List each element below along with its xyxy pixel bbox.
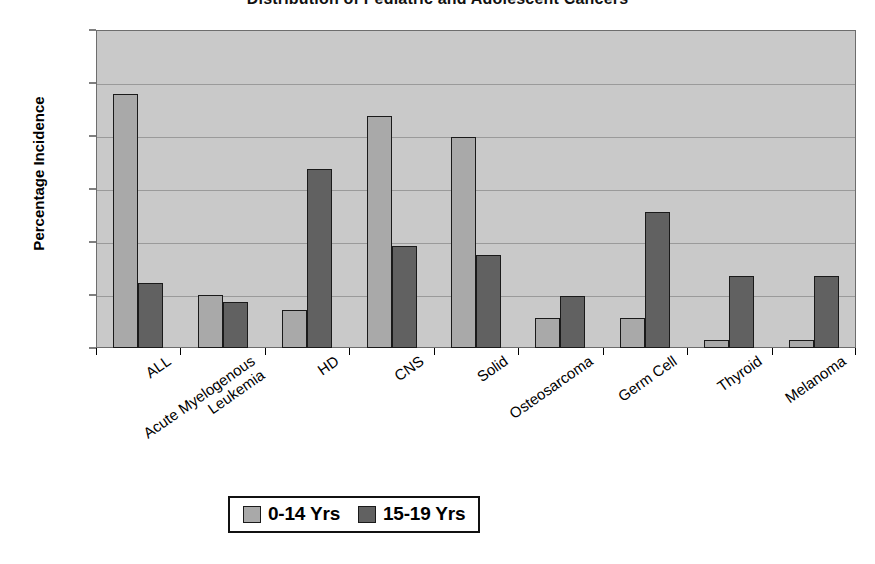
x-tick-label-line: HD xyxy=(315,352,343,378)
bar[interactable] xyxy=(198,295,223,348)
x-tick-label-line: Germ Cell xyxy=(615,352,680,405)
x-tick-label-line: ALL xyxy=(142,352,174,381)
bar-group xyxy=(687,30,771,348)
bar-group xyxy=(96,30,180,348)
bar-chart: Distribution of Pediatric and Adolescent… xyxy=(0,0,875,564)
legend-item-series-0[interactable]: 0-14 Yrs xyxy=(243,503,340,525)
bar[interactable] xyxy=(282,310,307,348)
bar-group xyxy=(518,30,602,348)
x-tick-label: HD xyxy=(315,352,343,379)
x-tick-label: Thyroid xyxy=(714,352,765,395)
legend-label: 15-19 Yrs xyxy=(383,503,465,525)
x-tick-label: Solid xyxy=(474,352,511,385)
y-tick-mark xyxy=(89,136,96,137)
legend-swatch-icon xyxy=(358,506,376,523)
bar-group xyxy=(603,30,687,348)
bar-group xyxy=(434,30,518,348)
bar[interactable] xyxy=(367,116,392,348)
bar[interactable] xyxy=(476,255,501,348)
legend-label: 0-14 Yrs xyxy=(268,503,340,525)
bar-groups xyxy=(96,30,856,348)
bar[interactable] xyxy=(645,212,670,348)
bar[interactable] xyxy=(138,283,163,348)
x-tick-label: Melanoma xyxy=(782,352,849,406)
bar[interactable] xyxy=(113,94,138,348)
x-tick-label-line: Melanoma xyxy=(782,352,849,406)
bar[interactable] xyxy=(223,302,248,348)
bar[interactable] xyxy=(620,318,645,348)
bar-group xyxy=(265,30,349,348)
x-axis-labels: ALLAcute MyelogenousLeukemiaHDCNSSolidOs… xyxy=(96,352,856,472)
bar-group xyxy=(349,30,433,348)
y-tick-mark xyxy=(89,242,96,243)
x-tick-label: ALL xyxy=(142,352,174,381)
bar[interactable] xyxy=(307,169,332,348)
chart-legend: 0-14 Yrs 15-19 Yrs xyxy=(228,496,480,533)
bar[interactable] xyxy=(392,246,417,348)
bar-group xyxy=(772,30,856,348)
x-tick-label-line: CNS xyxy=(391,352,427,384)
x-tick-label-line: Thyroid xyxy=(714,352,765,395)
x-tick-label: CNS xyxy=(391,352,427,384)
bar[interactable] xyxy=(704,340,729,348)
chart-title: Distribution of Pediatric and Adolescent… xyxy=(0,0,875,8)
x-tick-label-line: Solid xyxy=(474,352,511,385)
bar[interactable] xyxy=(535,318,560,348)
y-tick-mark xyxy=(89,30,96,31)
y-tick-mark xyxy=(89,348,96,349)
y-tick-mark xyxy=(89,189,96,190)
legend-item-series-1[interactable]: 15-19 Yrs xyxy=(358,503,465,525)
y-tick-mark xyxy=(89,83,96,84)
bar[interactable] xyxy=(560,296,585,348)
bar[interactable] xyxy=(451,137,476,348)
x-tick-label: Osteosarcoma xyxy=(506,352,596,422)
y-tick-mark xyxy=(89,295,96,296)
bar[interactable] xyxy=(729,276,754,348)
bar[interactable] xyxy=(814,276,839,348)
bar[interactable] xyxy=(789,340,814,348)
x-tick-label: Germ Cell xyxy=(615,352,680,405)
y-axis-title: Percentage Incidence xyxy=(30,44,47,304)
bar-group xyxy=(180,30,264,348)
x-tick-label-line: Osteosarcoma xyxy=(506,352,596,422)
legend-swatch-icon xyxy=(243,506,261,523)
